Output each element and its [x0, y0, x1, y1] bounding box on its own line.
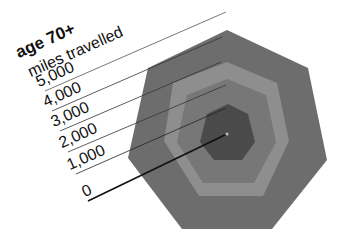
center-dot [225, 132, 228, 135]
